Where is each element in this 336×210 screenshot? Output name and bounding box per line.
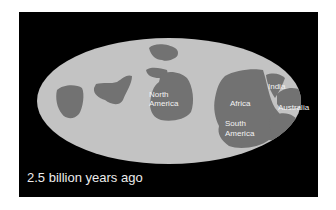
label-south-america-line2: America bbox=[225, 129, 254, 138]
label-north-america-line1: North bbox=[149, 90, 169, 99]
label-north-america-line2: America bbox=[149, 99, 178, 108]
label-australia: Australia bbox=[278, 103, 309, 112]
label-africa: Africa bbox=[230, 99, 250, 108]
map-panel: North America Africa South America India… bbox=[19, 12, 318, 197]
landmass-southeast bbox=[269, 113, 318, 172]
time-caption: 2.5 billion years ago bbox=[27, 170, 143, 185]
label-india: India bbox=[268, 82, 285, 91]
label-south-america-line1: South bbox=[225, 119, 246, 128]
